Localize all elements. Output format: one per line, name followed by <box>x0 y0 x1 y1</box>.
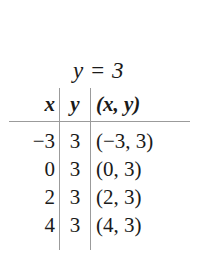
cell-pair-2: (2, 3) <box>96 183 197 211</box>
cell-x-0: −3 <box>0 127 55 155</box>
cell-y-3: 3 <box>62 211 88 239</box>
column-divider-rule-left <box>59 88 60 250</box>
cell-x-3: 4 <box>0 211 55 239</box>
cell-pair-1: (0, 3) <box>96 155 197 183</box>
header-divider-rule <box>9 121 190 122</box>
cell-y-0: 3 <box>62 127 88 155</box>
column-header-ordered-pair: (x, y) <box>96 91 197 117</box>
cell-y-2: 3 <box>62 183 88 211</box>
column-divider-rule-right <box>90 88 91 250</box>
function-table-figure: y = 3 x y (x, y) −3 3 (−3, 3) 0 3 (0, 3)… <box>0 0 197 275</box>
cell-pair-0: (−3, 3) <box>96 127 197 155</box>
cell-x-2: 2 <box>0 183 55 211</box>
column-header-y: y <box>62 91 88 117</box>
cell-y-1: 3 <box>62 155 88 183</box>
cell-pair-3: (4, 3) <box>96 211 197 239</box>
cell-x-1: 0 <box>0 155 55 183</box>
value-table: x y (x, y) −3 3 (−3, 3) 0 3 (0, 3) 2 3 (… <box>0 0 197 275</box>
column-header-x: x <box>0 91 55 117</box>
